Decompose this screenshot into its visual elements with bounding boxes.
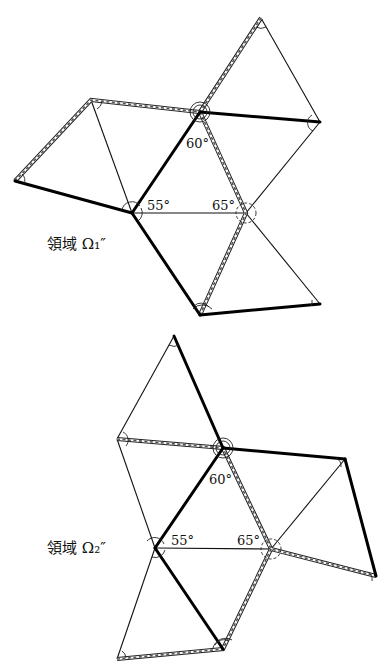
- region-label-omega1: 領域 Ω₁″: [47, 235, 106, 253]
- thin-edges: [91, 18, 320, 304]
- figure-omega2: 60° 55° 65° 領域 Ω₂″: [47, 336, 376, 659]
- angle-label-60: 60°: [186, 136, 209, 151]
- angle-label-65: 65°: [212, 198, 235, 213]
- angle-label-65: 65°: [237, 533, 260, 548]
- diagram-canvas: 60° 55° 65° 領域 Ω₁″: [0, 0, 391, 672]
- region-label-omega2: 領域 Ω₂″: [47, 539, 106, 557]
- figure-omega1: 60° 55° 65° 領域 Ω₁″: [15, 18, 320, 315]
- angle-label-55: 55°: [171, 533, 194, 548]
- double-dashed-edges: [15, 18, 261, 315]
- angle-label-55: 55°: [147, 198, 170, 213]
- thick-edges: [155, 336, 376, 649]
- angle-label-60: 60°: [209, 472, 232, 487]
- thin-edges: [117, 336, 345, 659]
